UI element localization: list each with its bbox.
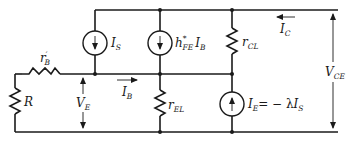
label-ve: VE [76,96,91,112]
label-hfe-ib: h*FEIB [175,34,206,52]
label-vce: VCE [325,65,345,81]
label-rcl: rCL [242,35,258,51]
label-rb-prime: r′B [40,50,50,67]
label-ib: IB [121,85,133,101]
label-rel: rEL [168,98,184,114]
label-ie: IE= − λIS [247,97,303,113]
rel-resistor [155,74,165,132]
is-current-source [83,10,107,74]
rb-prime-resistor [22,68,60,74]
ie-current-source [220,74,244,132]
label-r: R [23,95,33,109]
label-is: IS [110,36,121,52]
hfe-current-source [148,10,172,74]
r-resistor [10,74,20,132]
label-ic: IC [279,22,291,38]
rcl-resistor [227,10,237,74]
junction-dots [93,8,234,134]
circuit-diagram: r′B R IS h*FEIB rCL rEL IE= − λIS IC IB … [0,0,357,149]
